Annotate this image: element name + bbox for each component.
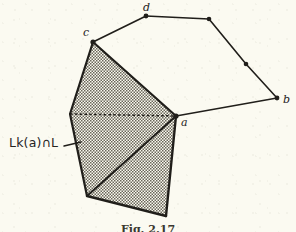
figure-drawing <box>0 0 296 232</box>
edge-p2-b <box>246 64 277 98</box>
edge-d-p1 <box>146 16 209 19</box>
figure-caption: Fig. 2.17 <box>0 224 296 232</box>
vertex-dot-b <box>275 96 280 101</box>
edge-c-d <box>93 16 146 42</box>
edge-b-a <box>176 98 277 116</box>
vertex-label-c: c <box>83 27 89 38</box>
link-annotation-label: Lk(a)∩L <box>9 137 58 150</box>
figure-container: a b c d Lk(a)∩L Fig. 2.17 <box>0 0 296 232</box>
shaded-triangle-upper <box>70 42 176 116</box>
vertex-label-d: d <box>143 2 150 13</box>
vertex-label-a: a <box>181 117 188 128</box>
vertex-dot-a <box>173 113 178 118</box>
vertex-dot-c <box>90 39 95 44</box>
vertex-label-b: b <box>283 94 290 105</box>
vertex-dot-p2 <box>244 62 249 67</box>
vertex-dot-d <box>144 14 149 19</box>
edge-p1-p2 <box>209 19 246 64</box>
vertex-dot-p1 <box>207 17 212 22</box>
